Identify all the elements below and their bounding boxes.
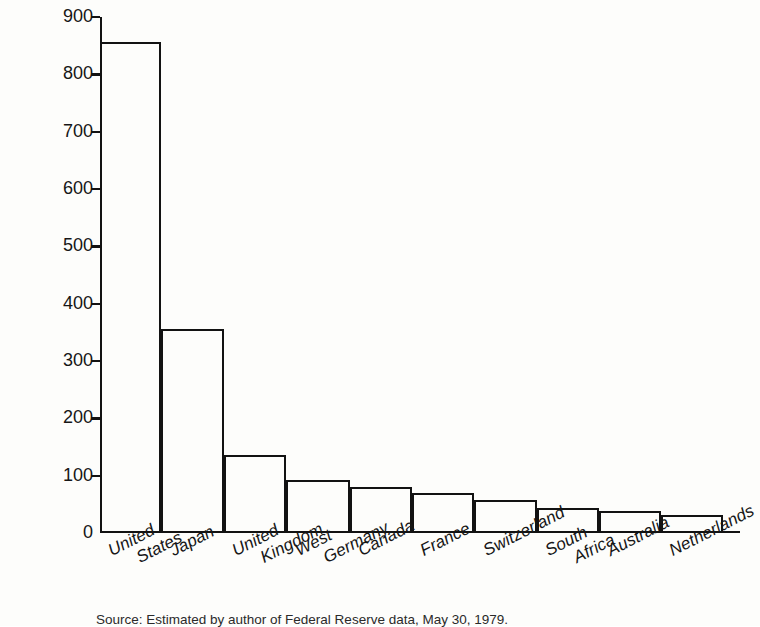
y-tick-label: 400: [63, 293, 93, 313]
category-label-line2: Africa: [551, 530, 618, 577]
category-label-line2: States: [113, 528, 185, 577]
y-tick-label: 100: [63, 465, 93, 485]
y-tick-label: 500: [63, 235, 93, 255]
bar: [100, 42, 161, 533]
bar: [599, 511, 661, 533]
y-tick-label: 800: [63, 63, 93, 83]
figure-caption: Source: Estimated by author of Federal R…: [96, 612, 736, 627]
y-tick-label: 900: [63, 6, 93, 26]
bar: [661, 515, 723, 533]
y-tick-label: 200: [63, 407, 93, 427]
bar-series: [100, 17, 740, 533]
bar: [161, 329, 224, 533]
plot-area: 0100200300400500600700800900: [100, 17, 740, 533]
bar: [286, 480, 350, 533]
y-tick-label: 0: [83, 522, 93, 542]
y-tick-label: 700: [63, 121, 93, 141]
bar: [224, 455, 286, 533]
bar: [412, 493, 474, 533]
bar: [350, 487, 412, 533]
bar: [537, 508, 599, 533]
y-tick-label: 600: [63, 178, 93, 198]
y-tick-label: 300: [63, 350, 93, 370]
bar: [474, 500, 537, 533]
